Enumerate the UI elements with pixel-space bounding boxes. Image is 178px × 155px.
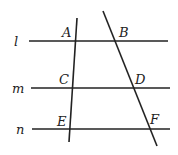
point-label-B: B [118,25,129,40]
point-label-D: D [134,72,146,87]
transversal-BDF [103,11,157,146]
point-label-A: A [61,25,71,40]
line-label-l: l [14,34,18,49]
point-label-C: C [59,72,69,87]
geometry-diagram: lmn ABCDEF [0,0,178,155]
parallel-lines [29,41,170,129]
point-label-E: E [56,114,67,129]
line-label-m: m [12,81,24,96]
line-labels: lmn [12,34,24,137]
point-label-F: F [149,112,160,127]
line-label-n: n [16,122,24,137]
